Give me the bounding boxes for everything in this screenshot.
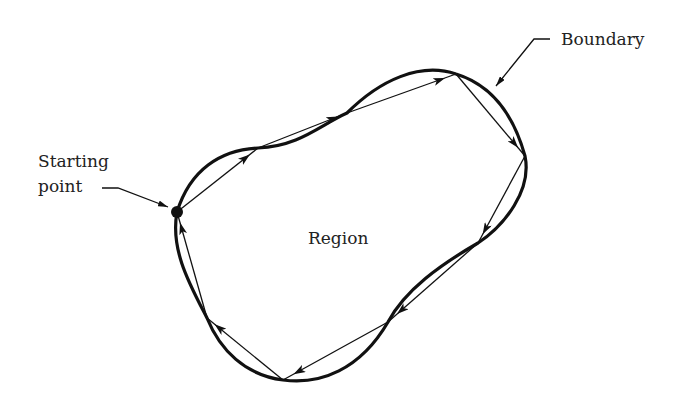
starting-point-marker <box>171 206 183 218</box>
boundary-label: Boundary <box>561 29 645 49</box>
diagram-canvas: Starting point Boundary Region <box>0 0 695 404</box>
region-boundary-curve <box>176 70 527 381</box>
boundary-leader <box>496 39 550 86</box>
starting-point-label-line1: Starting <box>38 151 109 171</box>
starting-point-leader <box>102 188 168 207</box>
starting-point-label-line2: point <box>38 176 83 196</box>
polygon-segments <box>177 74 525 380</box>
region-label: Region <box>308 228 368 248</box>
